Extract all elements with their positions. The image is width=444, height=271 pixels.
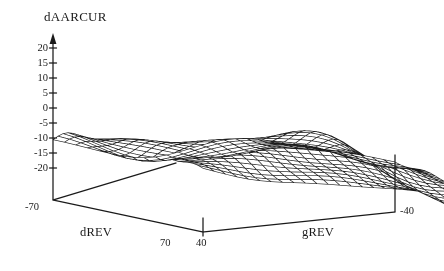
z-axis-tick-label: 0 — [16, 103, 48, 114]
y-axis-title: gREV — [302, 226, 334, 239]
x-axis-title: dREV — [80, 226, 112, 239]
z-axis-tick-label: 15 — [16, 58, 48, 69]
z-axis-title: dAARCUR — [44, 10, 107, 23]
z-axis-tick-label: 10 — [16, 73, 48, 84]
surface-plot-figure: dAARCUR dREV gREV -70 70 40 -40 20151050… — [0, 0, 444, 271]
z-axis-tick-label: -15 — [16, 148, 48, 159]
x-axis-far-corner-label: -70 — [25, 202, 39, 213]
z-axis-tick-label: 20 — [16, 43, 48, 54]
surface-wireframe-canvas — [0, 0, 444, 271]
y-axis-near-corner-label: 40 — [196, 238, 207, 249]
z-axis-tick-label: -5 — [16, 118, 48, 129]
x-axis-near-corner-label: 70 — [160, 238, 171, 249]
y-axis-far-corner-label: -40 — [400, 206, 414, 217]
z-axis-tick-label: 5 — [16, 88, 48, 99]
z-axis-tick-label: -10 — [16, 133, 48, 144]
z-axis-tick-label: -20 — [16, 163, 48, 174]
